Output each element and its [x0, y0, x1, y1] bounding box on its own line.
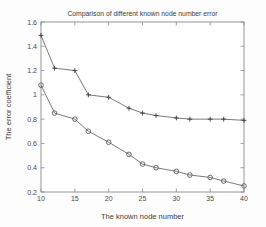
x-tick-label: 40 — [240, 195, 248, 202]
x-tick-label: 30 — [172, 195, 180, 202]
y-axis-label: The error coefficient — [4, 73, 13, 140]
chart-title: Comparison of different known node numbe… — [67, 10, 218, 18]
y-tick-label: 0.6 — [27, 140, 37, 147]
chart-plot: Comparison of different known node numbe… — [0, 0, 266, 227]
y-tick-label: 1.4 — [27, 43, 37, 50]
x-tick-label: 25 — [139, 195, 147, 202]
x-tick-label: 35 — [206, 195, 214, 202]
y-tick-label: 1.6 — [27, 19, 37, 26]
y-tick-label: 1 — [33, 91, 37, 98]
figure-canvas: Comparison of different known node numbe… — [0, 0, 266, 227]
x-axis-label: The known node number — [101, 212, 184, 221]
x-tick-label: 15 — [71, 195, 79, 202]
y-tick-label: 1.2 — [27, 67, 37, 74]
y-tick-label: 0.2 — [27, 189, 37, 196]
y-tick-label: 0.4 — [27, 164, 37, 171]
x-tick-label: 10 — [37, 195, 45, 202]
x-tick-label: 20 — [105, 195, 113, 202]
y-tick-label: 0.8 — [27, 116, 37, 123]
